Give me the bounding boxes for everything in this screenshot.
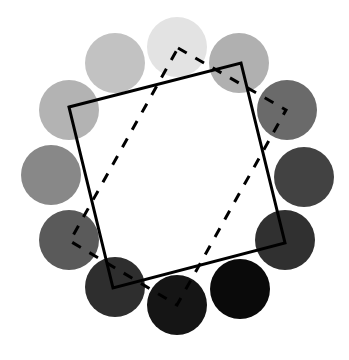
- circle-1-top: [147, 17, 207, 77]
- circle-10-left: [21, 145, 81, 205]
- circle-6-bottom-right: [210, 259, 270, 319]
- circle-4-right: [274, 147, 334, 207]
- circle-12-top-left: [85, 33, 145, 93]
- circle-9-left-lower: [39, 210, 99, 270]
- color-wheel-diagram: [0, 0, 349, 360]
